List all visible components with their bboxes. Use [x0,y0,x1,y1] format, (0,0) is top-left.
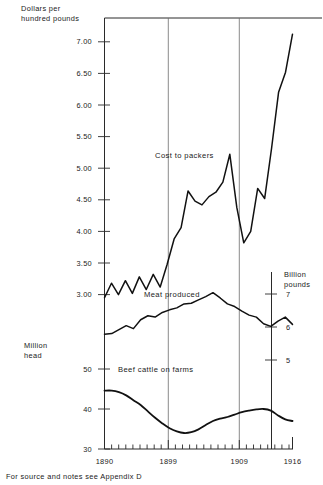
vertical-dividers [168,18,239,449]
series-line-cost-to-packers [105,34,293,298]
right-axis-title-line2: pounds [284,280,310,289]
x-axis-ticks: 1890 1899 1909 1916 [96,440,302,466]
right-tick-label-7: 7 [286,290,290,299]
x-tick-label-1909: 1909 [230,457,248,466]
y-tick-label-5-00: 5.00 [76,164,92,173]
left-axis-upper [105,18,323,449]
y-tick-label-5-50: 5.50 [76,132,92,141]
series-label-meat-produced: Meat produced [144,290,200,299]
y-lower-tick-label-30: 30 [83,445,92,454]
y-tick-label-4-00: 4.00 [76,227,92,236]
right-tick-label-6: 6 [286,323,290,332]
x-tick-label-1916: 1916 [284,457,302,466]
right-tick-label-5: 5 [286,356,290,365]
chart-svg: 7.00 6.50 6.00 5.50 5.00 4.50 4.00 3.50 … [0,0,323,485]
left-axis-title-line1: Dollars per [21,4,61,13]
series-line-beef-cattle-on-farms [105,390,293,433]
y-lower-tick-label-40: 40 [83,405,92,414]
y-lower-tick-label-50: 50 [83,365,92,374]
x-tick-label-1890: 1890 [96,457,114,466]
right-axis-ticks: 7 6 5 [265,290,290,365]
chart-figure: 7.00 6.50 6.00 5.50 5.00 4.50 4.00 3.50 … [0,0,323,485]
left-lower-axis-title-line1: Million [24,341,47,350]
right-axis-title-line1: Billion [284,270,306,279]
left-axis-lower-ticks: 50 40 30 [83,365,110,454]
left-lower-axis-title-line2: head [24,351,42,360]
y-tick-label-4-50: 4.50 [76,195,92,204]
y-tick-label-3-00: 3.00 [76,290,92,299]
y-tick-label-6-50: 6.50 [76,69,92,78]
series-labels: Cost to packers Meat produced Beef cattl… [118,151,214,374]
x-tick-label-1899: 1899 [159,457,177,466]
left-axis-title-line2: hundred pounds [21,14,79,23]
y-tick-label-7-00: 7.00 [76,37,92,46]
y-tick-label-3-50: 3.50 [76,259,92,268]
series-label-beef-cattle-on-farms: Beef cattle on farms [118,365,194,374]
footnote: For source and notes see Appendix D [6,472,142,481]
series-label-cost-to-packers: Cost to packers [155,151,214,160]
y-tick-label-6-00: 6.00 [76,101,92,110]
